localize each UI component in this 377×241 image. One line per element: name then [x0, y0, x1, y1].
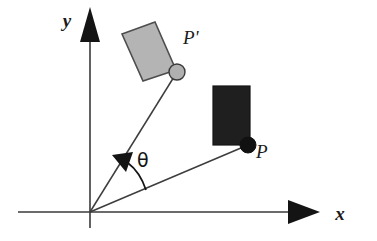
y-axis-label: y: [61, 10, 72, 31]
point-label-p: P: [255, 141, 268, 162]
vector-to-rotated-point: [90, 72, 177, 212]
point-label-p-prime: P': [182, 27, 200, 48]
rotated-rectangle: [122, 22, 176, 81]
axes-group: x y: [18, 7, 345, 228]
original-point-marker: [240, 137, 256, 153]
rotation-angle-arc-group: θ: [112, 149, 149, 190]
y-axis-arrowhead: [80, 7, 100, 42]
angle-arc-arrowhead: [112, 152, 133, 172]
x-axis-arrowhead: [288, 200, 320, 224]
x-axis-label: x: [334, 203, 345, 224]
original-rectangle: [213, 86, 250, 145]
angle-label-theta: θ: [137, 149, 149, 171]
rotated-rectangle-group: P': [122, 22, 200, 81]
figure-canvas: x y P P' θ: [0, 0, 377, 241]
rotation-diagram: x y P P' θ: [0, 0, 377, 241]
original-rectangle-group: P: [213, 86, 268, 162]
rotated-point-marker: [169, 64, 185, 80]
